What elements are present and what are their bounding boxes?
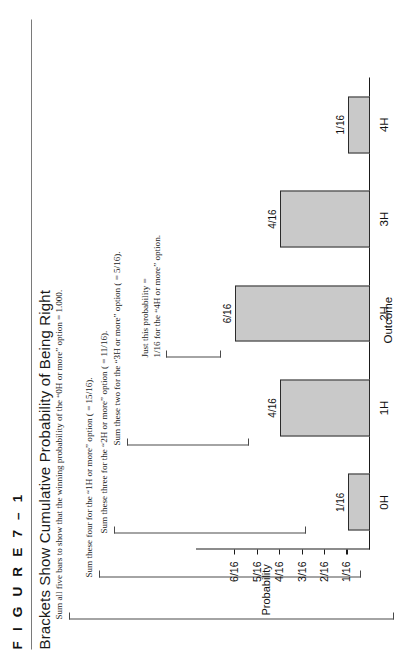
y-tick-label: 4/16 (273, 561, 285, 581)
bracket-tip-top (166, 350, 167, 357)
y-tick: 3/16 (302, 549, 303, 554)
bar-value-label: 4/16 (267, 398, 278, 417)
annotation-1h-or-more: Sum these four for the “1H or more” opti… (84, 377, 96, 577)
bracket-tip-top (114, 526, 115, 533)
y-tick-label: 6/16 (228, 561, 240, 581)
rotated-page-wrapper: F I G U R E 7 – 1 Brackets Show Cumulati… (0, 0, 414, 667)
bar: 1/160H (348, 474, 370, 531)
bar-value-label: 1/16 (335, 114, 346, 133)
annotation-2h-or-more: Sum these three for the “2H or more” opt… (99, 330, 111, 533)
bar: 4/161H (280, 379, 370, 436)
annotation-4h-or-more-line1: Just this probability = (140, 278, 152, 357)
bracket-tip-top (127, 438, 128, 445)
y-axis-line (196, 548, 370, 549)
bar-value-label: 4/16 (267, 209, 278, 228)
annotation-3h-or-more: Sum these two for the “3H or more” optio… (112, 251, 124, 445)
annotation-0h-or-more: Sum all five bars to show that the winni… (54, 289, 66, 619)
y-tick: 6/16 (234, 549, 235, 554)
bar: 1/164H (348, 96, 370, 153)
bracket-spine (69, 618, 394, 619)
bracket-0h-or-more (69, 612, 394, 619)
x-tick-label: 2H (378, 306, 390, 321)
bracket-tip-bottom (360, 570, 361, 577)
bar-value-label: 1/16 (335, 492, 346, 511)
y-tick: 2/16 (324, 549, 325, 554)
bar-value-label: 6/16 (222, 303, 233, 322)
figure-page: F I G U R E 7 – 1 Brackets Show Cumulati… (0, 0, 414, 667)
bracket-tip-top (99, 570, 100, 577)
bracket-tip-top (69, 612, 70, 619)
y-tick-label: 5/16 (251, 561, 263, 581)
x-tick-label: 3H (378, 211, 390, 226)
y-tick-label: 2/16 (318, 561, 330, 581)
bar-chart: Probability Outcome 1/162/163/164/165/16… (196, 49, 396, 549)
figure-title: Brackets Show Cumulative Probability of … (36, 290, 53, 649)
y-tick: 1/16 (346, 549, 347, 554)
header-divider (31, 19, 32, 649)
figure-number-label: F I G U R E 7 – 1 (10, 491, 25, 649)
x-tick-label: 1H (378, 400, 390, 415)
bracket-tip-bottom (393, 612, 394, 619)
y-tick-label: 3/16 (296, 561, 308, 581)
y-tick-label: 1/16 (340, 561, 352, 581)
y-tick: 4/16 (279, 549, 280, 554)
y-tick: 5/16 (257, 549, 258, 554)
x-tick-label: 4H (378, 117, 390, 132)
bar: 4/163H (280, 190, 370, 247)
bar: 6/162H (235, 285, 370, 342)
x-tick-label: 0H (378, 494, 390, 509)
annotation-4h-or-more-line2: 1/16 for the “4H or more” option. (152, 235, 164, 357)
